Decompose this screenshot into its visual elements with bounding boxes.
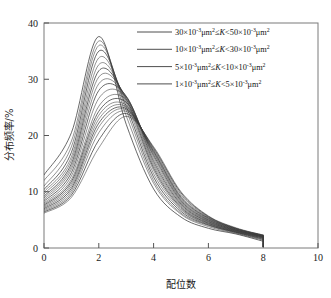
y-tick-label: 0 [33,243,38,254]
legend-label: 1×10-3μm2≤K<5×10-3μm2 [175,79,261,89]
legend-label: 10×10-3μm2≤K<30×10-3μm2 [175,44,270,54]
x-tick-label: 0 [42,252,47,263]
y-tick-label: 20 [28,130,38,141]
legend-label: 30×10-3μm2≤K<50×10-3μm2 [175,27,270,37]
x-tick-label: 8 [261,252,266,263]
y-tick-label: 40 [28,18,38,29]
legend-label: 5×10-3μm2≤K<10×10-3μm2 [175,62,266,72]
y-tick-label: 30 [28,74,38,85]
y-axis-title: 分布频率/% [3,109,15,162]
y-tick-label: 10 [28,186,38,197]
x-tick-label: 6 [206,252,211,263]
x-axis-title: 配位数 [166,278,196,290]
x-tick-label: 2 [96,252,101,263]
x-tick-label: 4 [151,252,156,263]
x-tick-label: 10 [313,252,323,263]
chart-background [0,0,331,298]
distribution-frequency-line-chart: 0246810 010203040 配位数 分布频率/% 30×10-3μm2≤… [0,0,331,298]
chart-figure: 0246810 010203040 配位数 分布频率/% 30×10-3μm2≤… [0,0,331,298]
